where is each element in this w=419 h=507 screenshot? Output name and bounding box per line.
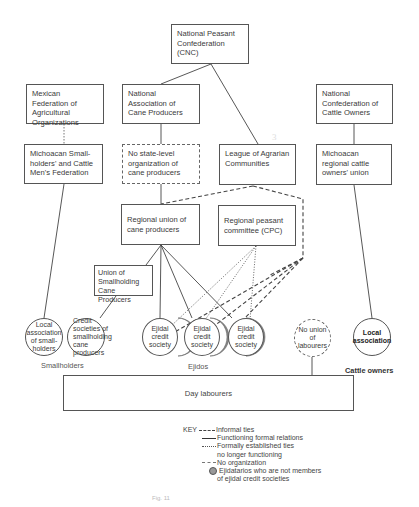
node-league: League of Agrarian Communities xyxy=(219,144,296,185)
node-regional-cane-union: Regional union of cane producers xyxy=(121,204,200,245)
edge-league-ejidal3 xyxy=(241,258,303,322)
legend-crescent-label: Ejidatarios who are not members xyxy=(219,467,321,475)
node-local-association: Local association xyxy=(353,318,391,356)
node-national-cane: National Association of Cane Producers xyxy=(122,84,200,124)
edge-league-regional-union xyxy=(161,186,253,204)
group-label-ejidos: Ejidos xyxy=(188,362,208,371)
legend-row-no-org: No organization xyxy=(183,459,321,467)
group-label-smallholders: Smallholders xyxy=(41,361,84,370)
pencil-annotation: 3 xyxy=(272,132,277,142)
edge-regional-union-ejidal1 xyxy=(160,245,161,318)
legend-row-formal: Formally established ties xyxy=(183,442,321,450)
legend-dashdot-line-icon xyxy=(202,462,216,463)
node-no-state-level: No state-level organization of cane prod… xyxy=(122,144,200,184)
legend-row-formal-2: no longer functioning xyxy=(183,451,321,459)
node-ejidal-1: Ejidal credit society xyxy=(142,318,178,356)
edge-regional-union-smallholding xyxy=(146,245,161,265)
node-national-cattle: National Confederation of Cattle Owners xyxy=(316,84,393,124)
edge-cpc-ejidal1 xyxy=(170,246,256,327)
edge-cpc-ejidal2 xyxy=(205,246,256,320)
edge-michoacan-small-local xyxy=(44,184,64,318)
legend-dotted-line-icon xyxy=(202,446,216,447)
edge-cpc-ejidal3 xyxy=(250,246,256,320)
legend-formal-label: Formally established ties xyxy=(217,442,294,450)
legend-crescent-label-2: of ejidal credit societies xyxy=(217,475,289,483)
legend: KEY Informal ties Functioning formal rel… xyxy=(183,426,321,483)
legend-solid-line-icon xyxy=(202,438,216,439)
legend-no-org-label: No organization xyxy=(217,459,266,467)
node-credit-smallholding: Credit societies of smallholding cane pr… xyxy=(67,318,105,356)
node-michoacan-smallholders: Michoacan Small-holders' and Cattle Men'… xyxy=(24,144,103,184)
legend-functioning-label: Functioning formal relations xyxy=(217,434,303,442)
edge-michoacan-cattle-local xyxy=(354,185,372,318)
edge-regional-union-ejidal2 xyxy=(161,245,192,318)
node-local-smallholders: Local association of small-holders xyxy=(25,318,63,356)
edge-regional-union-ejidal3 xyxy=(161,245,232,318)
group-label-cattle-owners: Cattle owners xyxy=(345,366,393,375)
legend-shaded-circle-icon xyxy=(209,467,217,475)
node-michoacan-cattle: Michoacan regional cattle owners' union xyxy=(316,144,392,185)
legend-row-crescent: Ejidatarios who are not members xyxy=(183,467,321,475)
node-regional-peasant-committee: Regional peasant committee (CPC) xyxy=(218,205,296,246)
node-mexican-federation: Mexican Federation of Agricultural Organ… xyxy=(26,84,104,124)
legend-formal-label-2: no longer functioning xyxy=(217,451,282,459)
legend-title: KEY xyxy=(183,426,197,434)
edge-league-ejidal3b xyxy=(270,258,303,275)
legend-row-informal: KEY Informal ties xyxy=(183,426,321,434)
node-day-labourers: Day labourers xyxy=(63,375,354,411)
node-ejidal-3: Ejidal credit society xyxy=(228,318,264,356)
node-cnc: National Peasant Confederation (CNC) xyxy=(171,24,249,64)
credit-smallholding-text: Credit societies of smallholding cane pr… xyxy=(73,317,112,357)
node-no-union-labourers: No union of labourers xyxy=(294,319,331,357)
node-union-smallholding-cane: Union of Smallholding Cane Producers xyxy=(94,265,153,296)
edge-cnc-national-cane xyxy=(161,64,211,84)
legend-informal-label: Informal ties xyxy=(216,426,254,434)
legend-row-crescent-2: of ejidal credit societies xyxy=(183,475,321,483)
figure-caption: Fig. 11 xyxy=(152,495,170,501)
legend-row-functioning: Functioning formal relations xyxy=(183,434,321,442)
legend-informal-line-icon xyxy=(199,430,215,431)
node-ejidal-2: Ejidal credit society xyxy=(184,318,220,356)
edge-cnc-league xyxy=(211,64,258,144)
